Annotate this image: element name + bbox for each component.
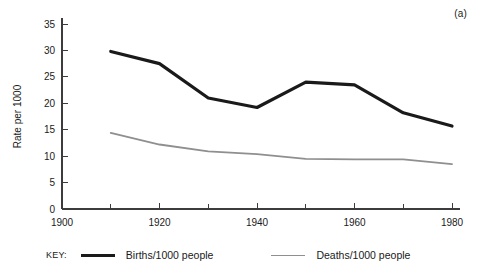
x-tick-label: 1980: [441, 217, 464, 228]
y-tick-label: 5: [49, 177, 55, 188]
axes: [62, 18, 460, 209]
x-tick-label: 1900: [51, 217, 74, 228]
legend-swatch-births: [81, 254, 115, 257]
legend-entry-deaths: Deaths/1000 people: [271, 249, 410, 261]
y-tick-label: 0: [49, 204, 55, 215]
y-axis-title: Rate per 1000: [12, 84, 23, 148]
legend-swatch-deaths: [271, 255, 305, 256]
series-line-births: [111, 51, 452, 126]
y-tick-label: 10: [44, 151, 56, 162]
y-tick-label: 35: [44, 19, 56, 30]
legend-label-births: Births/1000 people: [126, 249, 214, 261]
x-tick-label: 1940: [246, 217, 269, 228]
series-line-deaths: [111, 133, 452, 164]
y-tick-label: 30: [44, 45, 56, 56]
legend-entry-births: Births/1000 people: [81, 249, 214, 261]
line-chart: 0510152025303519001920194019601980Rate p…: [0, 0, 481, 240]
figure-panel: (a) 0510152025303519001920194019601980Ra…: [0, 0, 481, 269]
x-tick-label: 1960: [343, 217, 366, 228]
x-tick-label: 1920: [148, 217, 171, 228]
data-series: [111, 51, 452, 164]
y-tick-label: 15: [44, 124, 56, 135]
legend-key-label: KEY:: [46, 250, 67, 260]
legend-label-deaths: Deaths/1000 people: [316, 249, 410, 261]
chart-legend: KEY: Births/1000 people Deaths/1000 peop…: [46, 249, 410, 261]
axis-labels: 0510152025303519001920194019601980Rate p…: [12, 19, 464, 228]
y-tick-label: 20: [44, 98, 56, 109]
y-tick-label: 25: [44, 71, 56, 82]
